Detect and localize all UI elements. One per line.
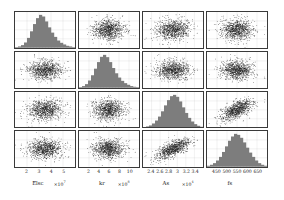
axis-multiplier-kr: ×108 <box>118 180 130 187</box>
x-tick-label: 3.2 <box>183 169 190 174</box>
x-tick-label: 8 <box>118 169 121 174</box>
x-tick-label: 450 <box>212 169 220 174</box>
x-tick-label: 500 <box>222 169 230 174</box>
x-tick-label: 3.4 <box>192 169 199 174</box>
scatter-panel-kr-vs-fs <box>78 130 140 168</box>
hist-panel-fs <box>206 130 268 168</box>
x-tick-label: 3 <box>37 169 40 174</box>
x-tick-label: 2 <box>25 169 28 174</box>
x-tick-label: 550 <box>233 169 241 174</box>
x-tick-label: 2.6 <box>156 169 163 174</box>
scatter-panel-kr-vs-elsc <box>78 11 140 49</box>
x-tick-labels-elsc: 2345 <box>14 169 76 178</box>
x-tick-label: 600 <box>243 169 251 174</box>
x-tick-label: 3 <box>176 169 179 174</box>
x-tick-labels-as: 2.42.62.833.23.4 <box>142 169 204 178</box>
x-tick-label: 4 <box>97 169 100 174</box>
scatter-panel-as-vs-fs <box>142 130 204 168</box>
scatter-panel-fs-vs-kr <box>206 51 268 89</box>
x-tick-labels-fs: 450500550600650 <box>206 169 268 178</box>
x-tick-label: 4 <box>50 169 53 174</box>
axis-label-as: As <box>152 180 180 186</box>
hist-panel-as <box>142 91 204 129</box>
corner-plot-figure: 2345Elsc×107246810kr×1082.42.62.833.23.4… <box>0 0 284 200</box>
scatter-panel-elsc-vs-as <box>14 91 76 129</box>
scatter-panel-as-vs-elsc <box>142 11 204 49</box>
x-tick-label: 2.8 <box>165 169 172 174</box>
scatter-panel-kr-vs-as <box>78 91 140 129</box>
scatter-panel-elsc-vs-kr <box>14 51 76 89</box>
axis-label-kr: kr <box>88 180 116 186</box>
hist-panel-kr <box>78 51 140 89</box>
axis-label-fs: fs <box>216 180 244 186</box>
x-tick-label: 5 <box>62 169 65 174</box>
x-tick-label: 2 <box>87 169 90 174</box>
axis-multiplier-as: ×104 <box>182 180 194 187</box>
axis-label-elsc: Elsc <box>24 180 52 186</box>
x-tick-label: 10 <box>127 169 133 174</box>
x-tick-label: 650 <box>253 169 261 174</box>
scatter-matrix <box>14 11 268 168</box>
scatter-panel-as-vs-kr <box>142 51 204 89</box>
scatter-panel-fs-vs-elsc <box>206 11 268 49</box>
scatter-panel-elsc-vs-fs <box>14 130 76 168</box>
scatter-panel-fs-vs-as <box>206 91 268 129</box>
x-tick-label: 2.4 <box>147 169 154 174</box>
x-tick-labels-kr: 246810 <box>78 169 140 178</box>
axis-multiplier-elsc: ×107 <box>54 180 66 187</box>
hist-panel-elsc <box>14 11 76 49</box>
x-tick-label: 6 <box>108 169 111 174</box>
